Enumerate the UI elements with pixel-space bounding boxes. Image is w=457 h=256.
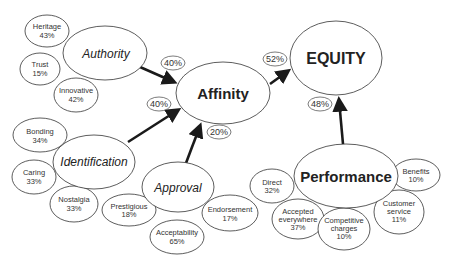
innovative-pct: 42%: [68, 95, 83, 104]
weight-affinity-equity: 52%: [266, 54, 284, 64]
trust-pct: 15%: [32, 69, 47, 78]
weight-identification-affinity: 40%: [150, 99, 168, 109]
innovative-label: Innovative: [59, 86, 93, 95]
brand-equity-diagram: Heritage 43% Trust 15% Innovative 42% Au…: [0, 0, 457, 256]
customer-service-pct: 11%: [392, 215, 407, 224]
weight-approval-affinity: 20%: [210, 127, 228, 137]
acceptability-label: Acceptability: [156, 228, 198, 237]
heritage-label: Heritage: [33, 22, 61, 31]
acceptability-pct: 65%: [169, 237, 184, 246]
performance-label: Performance: [300, 168, 392, 185]
authority-label: Authority: [81, 47, 130, 61]
caring-label: Caring: [23, 168, 45, 177]
equity-hub: EQUITY: [290, 21, 382, 95]
bonding-pct: 34%: [32, 136, 47, 145]
nostalgia-pct: 33%: [66, 204, 81, 213]
identification-label: Identification: [60, 155, 128, 169]
heritage-pct: 43%: [39, 31, 54, 40]
endorsement-pct: 17%: [222, 214, 237, 223]
performance-group: Direct 32% Accepted everywhere 37% Compe…: [250, 144, 440, 250]
direct-pct: 32%: [264, 186, 279, 195]
authority-group: Heritage 43% Trust 15% Innovative 42% Au…: [20, 15, 147, 112]
arrow-affinity-equity: [270, 71, 288, 84]
equity-label: EQUITY: [306, 50, 366, 67]
benefits-pct: 10%: [408, 175, 423, 184]
approval-label: Approval: [153, 181, 202, 195]
endorsement-label: Endorsement: [208, 205, 254, 214]
weight-performance-equity: 48%: [311, 99, 329, 109]
affinity-label: Affinity: [197, 85, 249, 102]
competitive-charges-pct: 10%: [336, 232, 351, 241]
weight-authority-affinity: 40%: [164, 58, 182, 68]
affinity-hub: Affinity: [176, 62, 270, 124]
trust-label: Trust: [32, 60, 50, 69]
caring-pct: 33%: [26, 177, 41, 186]
accepted-everywhere-pct: 37%: [290, 223, 305, 232]
nostalgia-label: Nostalgia: [58, 195, 90, 204]
arrow-approval-affinity: [186, 126, 200, 163]
arrow-identification-affinity: [128, 110, 178, 142]
prestigious-pct: 18%: [121, 210, 136, 219]
arrow-performance-equity: [339, 100, 343, 144]
bonding-label: Bonding: [26, 127, 54, 136]
